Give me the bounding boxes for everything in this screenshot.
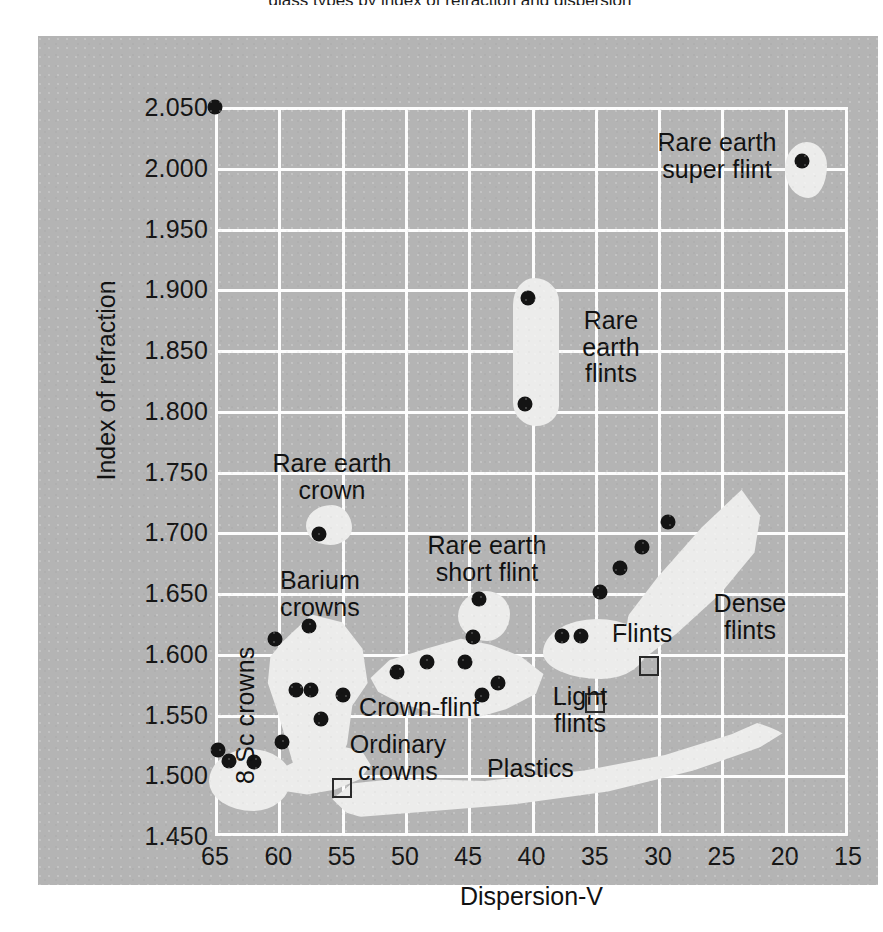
- annotation-8-sc-crowns: 8 Sc crowns: [232, 615, 259, 815]
- x-tick: 60: [264, 842, 292, 871]
- data-point: [458, 655, 473, 670]
- data-point: [634, 540, 649, 555]
- y-tick: 1.950: [144, 214, 208, 243]
- chart-panel: 2.050 2.000 1.950 1.900 1.850 1.800 1.75…: [38, 36, 878, 885]
- y-tick: 1.600: [144, 639, 208, 668]
- data-point: [661, 514, 676, 529]
- data-point: [314, 712, 329, 727]
- x-tick: 20: [771, 842, 799, 871]
- y-axis-title: Index of refraction: [92, 251, 121, 511]
- data-point: [520, 290, 535, 305]
- x-tick: 55: [328, 842, 356, 871]
- data-point: [491, 675, 506, 690]
- y-tick: 1.700: [144, 518, 208, 547]
- gridline-v: [215, 107, 218, 836]
- data-point: [465, 629, 480, 644]
- x-tick: 45: [454, 842, 482, 871]
- annotation-crown-flint: Crown-flint: [359, 694, 480, 721]
- y-tick: 2.050: [144, 93, 208, 122]
- data-point: [420, 655, 435, 670]
- gridline-v: [721, 107, 724, 836]
- data-point: [390, 664, 405, 679]
- chart-figure: glass types by index of refraction and d…: [0, 0, 883, 932]
- y-tick: 2.000: [144, 153, 208, 182]
- data-point: [304, 683, 319, 698]
- annotation-plastics: Plastics: [487, 755, 574, 782]
- data-point: [555, 628, 570, 643]
- data-point: [574, 628, 589, 643]
- y-tick: 1.500: [144, 761, 208, 790]
- data-point: [275, 734, 290, 749]
- plot-area: Rare earth super flint Rare earth flints…: [215, 107, 848, 836]
- y-tick: 1.850: [144, 336, 208, 365]
- y-tick: 1.800: [144, 396, 208, 425]
- data-point: [289, 683, 304, 698]
- data-point: [311, 526, 326, 541]
- data-point: [336, 688, 351, 703]
- data-point: [613, 560, 628, 575]
- y-tick: 1.750: [144, 457, 208, 486]
- data-point: [267, 632, 282, 647]
- gridline-v: [658, 107, 661, 836]
- data-point: [518, 396, 533, 411]
- data-point: [301, 618, 316, 633]
- x-tick: 15: [834, 842, 862, 871]
- x-axis-title: Dispersion-V: [215, 882, 848, 911]
- y-tick: 1.650: [144, 579, 208, 608]
- y-tick: 1.450: [144, 822, 208, 851]
- annotation-rare-earth-short-flint: Rare earth short flint: [397, 532, 577, 585]
- x-tick: 40: [518, 842, 546, 871]
- y-axis-tick-labels: 2.050 2.000 1.950 1.900 1.850 1.800 1.75…: [38, 107, 208, 836]
- annotation-rare-earth-crown: Rare earth crown: [247, 450, 417, 503]
- x-tick: 35: [581, 842, 609, 871]
- x-tick: 50: [391, 842, 419, 871]
- y-tick: 1.550: [144, 700, 208, 729]
- annotation-rare-earth-super-flint: Rare earth super flint: [632, 129, 802, 182]
- gridline-v: [785, 107, 788, 836]
- gridline-v: [845, 107, 848, 836]
- gridline-v: [468, 107, 471, 836]
- annotation-rare-earth-flints: Rare earth flints: [565, 307, 657, 387]
- annotation-ordinary-crowns: Ordinary crowns: [323, 731, 473, 784]
- annotation-dense-flints: Dense flints: [690, 590, 810, 643]
- annotation-barium-crowns: Barium crowns: [250, 567, 390, 620]
- data-point: [592, 585, 607, 600]
- x-tick: 25: [707, 842, 735, 871]
- data-point: [472, 592, 487, 607]
- x-tick: 65: [201, 842, 229, 871]
- figure-caption-sliver: glass types by index of refraction and d…: [150, 0, 750, 5]
- x-tick: 30: [644, 842, 672, 871]
- y-tick: 1.900: [144, 275, 208, 304]
- x-axis-tick-labels: 65 60 55 50 45 40 35 30 25 20 15: [215, 842, 848, 882]
- annotation-flints: Flints: [612, 620, 672, 647]
- data-point-square: [639, 656, 659, 676]
- annotation-light-flints: Light flints: [530, 683, 630, 736]
